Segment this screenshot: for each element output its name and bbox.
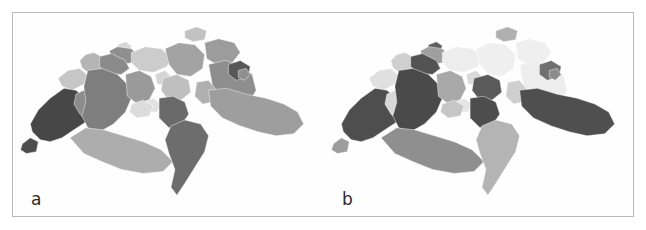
- canton-ZH: [476, 43, 516, 77]
- canton-GR: [520, 88, 615, 136]
- canton-TI: [476, 120, 520, 195]
- canton-SZ: [472, 74, 502, 100]
- figure-container: a: [0, 0, 646, 230]
- canton-SH: [496, 27, 518, 42]
- canton-AG: [442, 47, 482, 73]
- panel-b: b: [324, 13, 635, 216]
- canton-TI: [165, 120, 209, 195]
- canton-AG: [131, 47, 171, 73]
- canton-TG: [516, 39, 552, 65]
- canton-group-a: [20, 27, 303, 195]
- canton-SZ: [161, 74, 191, 100]
- switzerland-map-b: [324, 13, 635, 216]
- canton-NE: [369, 68, 399, 90]
- canton-BE: [393, 68, 443, 131]
- switzerland-map-a: [13, 13, 324, 216]
- canton-SH: [185, 27, 207, 42]
- canton-ZH: [165, 43, 205, 77]
- canton-GE: [20, 138, 38, 154]
- panel-label-a: a: [31, 191, 41, 208]
- canton-VS: [70, 128, 173, 174]
- panel-a: a: [13, 13, 324, 216]
- canton-TG: [205, 39, 241, 65]
- canton-BE: [82, 68, 132, 131]
- panel-label-b: b: [342, 191, 353, 208]
- canton-VS: [381, 128, 484, 174]
- canton-NE: [58, 68, 88, 90]
- canton-GR: [209, 88, 304, 136]
- canton-group-b: [331, 27, 614, 195]
- figure-frame: a: [12, 12, 634, 217]
- canton-GE: [331, 138, 349, 154]
